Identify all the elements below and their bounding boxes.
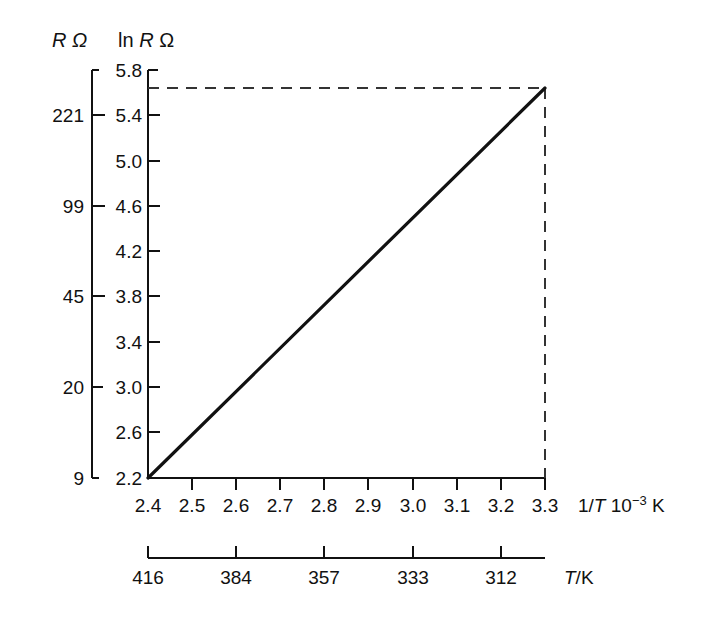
ln-tick-label-5-0: 5.0 [88, 152, 142, 171]
resistance-tick-label-9: 9 [24, 469, 84, 488]
x-tick-label-2-7: 2.7 [258, 496, 302, 515]
x-tick-label-2-8: 2.8 [302, 496, 346, 515]
ln-tick-label-3-0: 3.0 [88, 378, 142, 397]
ln-tick-label-4-2: 4.2 [88, 242, 142, 261]
ln-tick-label-2-2: 2.2 [88, 469, 142, 488]
resistance-tick-label-99: 99 [24, 197, 84, 216]
resistance-axis [92, 70, 105, 478]
ln-tick-label-3-4: 3.4 [88, 333, 142, 352]
chart-canvas [0, 0, 701, 623]
t-tick-label-416: 416 [118, 568, 178, 587]
ln-tick-label-5-8: 5.8 [88, 61, 142, 80]
resistance-axis-header: R Ω [52, 30, 87, 50]
t-tick-label-384: 384 [206, 568, 266, 587]
ln-tick-label-4-6: 4.6 [88, 197, 142, 216]
t-tick-label-357: 357 [294, 568, 354, 587]
data-line-series-1 [148, 88, 545, 478]
x-tick-label-3-0: 3.0 [391, 496, 435, 515]
x-axis-title: 1/T 10−3 K [578, 496, 665, 515]
temperature-axis-title: T/K [564, 568, 594, 587]
x-tick-label-3-3: 3.3 [523, 496, 567, 515]
resistance-tick-label-20: 20 [24, 378, 84, 397]
t-tick-label-333: 333 [383, 568, 443, 587]
temperature-axis [148, 546, 545, 558]
inverse-temperature-axis [148, 478, 545, 490]
t-tick-label-312: 312 [471, 568, 531, 587]
ln-tick-label-3-8: 3.8 [88, 287, 142, 306]
ln-tick-label-2-6: 2.6 [88, 423, 142, 442]
x-tick-label-3-2: 3.2 [479, 496, 523, 515]
x-tick-label-2-4: 2.4 [126, 496, 170, 515]
ln-resistance-axis-header: ln R Ω [118, 30, 174, 50]
arrhenius-plot-figure: R Ω ln R Ω 221 99 45 20 9 5.8 5.4 5.0 4.… [0, 0, 701, 623]
resistance-tick-label-45: 45 [24, 287, 84, 306]
ln-tick-label-5-4: 5.4 [88, 106, 142, 125]
x-tick-label-2-5: 2.5 [170, 496, 214, 515]
x-tick-label-2-9: 2.9 [346, 496, 390, 515]
ln-resistance-axis [148, 70, 160, 478]
resistance-tick-label-221: 221 [24, 106, 84, 125]
x-tick-label-3-1: 3.1 [435, 496, 479, 515]
x-tick-label-2-6: 2.6 [214, 496, 258, 515]
